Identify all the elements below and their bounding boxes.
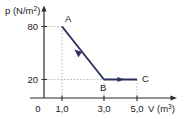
- x-tick-label-5: 5,0: [130, 103, 143, 114]
- x-axis-arrowhead: [171, 95, 178, 100]
- x-axis-title: V (m3): [148, 103, 175, 114]
- process-segment-ab: [62, 27, 104, 80]
- process-path: [62, 27, 137, 83]
- x-axis-title-main: V (m: [148, 103, 168, 114]
- y-axis-title: p (N/m2): [5, 5, 40, 16]
- y-tick-label-20: 20: [27, 74, 38, 85]
- y-axis-title-close: ): [37, 5, 40, 16]
- process-arrow-bc: [118, 77, 125, 82]
- x-tick-label-3: 3,0: [97, 103, 110, 114]
- x-tick-label-0: 0: [35, 103, 40, 114]
- y-tick-label-80: 80: [27, 21, 38, 32]
- pv-diagram-figure: p (N/m2) V (m3) 80 20 0 1,0 3,0 5,0 A B …: [0, 0, 190, 119]
- y-axis-arrowhead: [41, 6, 46, 12]
- point-label-c: C: [142, 73, 149, 84]
- pv-diagram-canvas: p (N/m2) V (m3) 80 20 0 1,0 3,0 5,0 A B …: [0, 0, 190, 119]
- tick-marks: [42, 27, 138, 102]
- point-label-a: A: [65, 13, 72, 24]
- point-label-b: B: [100, 82, 106, 93]
- x-axis-title-close: ): [172, 103, 175, 114]
- y-axis-title-main: p (N/m: [5, 5, 34, 16]
- x-tick-label-1: 1,0: [55, 103, 68, 114]
